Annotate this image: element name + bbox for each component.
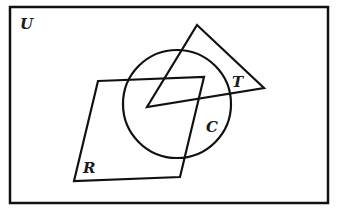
circle-c xyxy=(123,50,231,158)
universe-label: U xyxy=(20,17,33,32)
triangle-t xyxy=(147,25,264,107)
venn-diagram: U T C R xyxy=(0,0,348,213)
circle-label: C xyxy=(206,120,218,135)
rhombus-label: R xyxy=(83,161,95,176)
triangle-label: T xyxy=(232,75,243,90)
universe-frame xyxy=(10,7,328,203)
diagram-svg xyxy=(0,0,348,213)
